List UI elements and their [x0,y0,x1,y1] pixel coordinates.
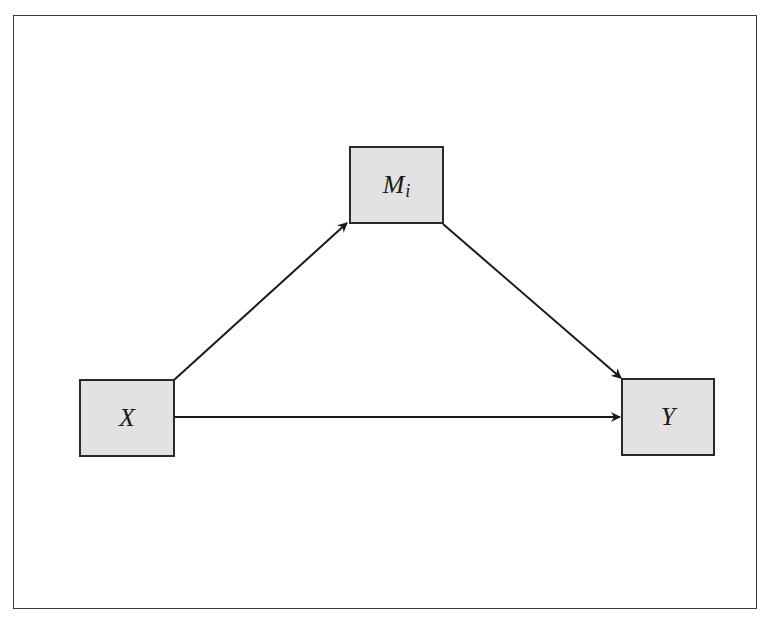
node-dependent: Y [621,378,715,456]
node-independent-label: X [119,403,135,433]
edge-m-to-y [443,224,621,378]
node-independent: X [79,379,175,457]
node-mediator-subscript: i [405,181,410,202]
node-mediator-label: M [383,170,405,200]
node-dependent-label: Y [661,402,675,432]
node-mediator: Mi [349,146,444,224]
edge-x-to-m [174,223,347,380]
diagram-edges [0,0,770,620]
